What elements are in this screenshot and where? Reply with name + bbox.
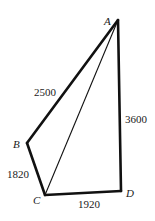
edge-cd <box>45 191 121 195</box>
edge-bc <box>27 143 45 195</box>
vertex-label-d: D <box>125 187 134 199</box>
vertex-label-c: C <box>33 194 41 206</box>
vertex-label-b: B <box>13 138 20 150</box>
edge-ab <box>27 20 118 143</box>
edge-label-cd: 1920 <box>78 198 101 210</box>
edge-label-bc: 1820 <box>7 168 30 180</box>
edge-da <box>118 20 121 191</box>
vertex-label-a: A <box>103 15 111 27</box>
edge-label-da: 3600 <box>125 113 148 125</box>
edge-label-ab: 2500 <box>34 86 57 98</box>
diagonal-ac <box>45 20 118 195</box>
quadrilateral-diagram: A B C D 2500 1820 1920 3600 <box>0 0 155 221</box>
